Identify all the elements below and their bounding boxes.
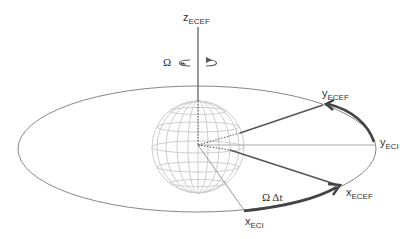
globe-icon <box>152 101 244 193</box>
y-ecef-label: yECEF <box>322 88 349 102</box>
omega-label: Ω <box>163 56 171 68</box>
x-rotation-arc <box>244 187 337 211</box>
x-eci-label: xECI <box>245 216 264 230</box>
y-eci-label: yECI <box>380 137 399 151</box>
y-rotation-arc <box>328 104 374 142</box>
y-ecef-axis <box>240 105 323 133</box>
ecef-eci-diagram <box>0 0 419 239</box>
x-ecef-label: xECEF <box>346 187 373 201</box>
x-eci-axis <box>198 145 244 210</box>
z-ecef-label: zECEF <box>183 12 210 26</box>
x-ecef-axis <box>230 150 341 186</box>
omega-dt-label: Ω Δt <box>262 191 282 203</box>
